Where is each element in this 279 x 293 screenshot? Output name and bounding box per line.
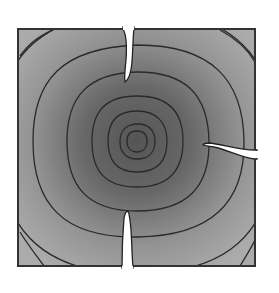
contour-plate-diagram bbox=[0, 0, 279, 293]
right-crack-gap bbox=[254, 151, 258, 158]
plate bbox=[0, 10, 272, 275]
bottom-crack-gap bbox=[122, 266, 133, 269]
top-crack-gap bbox=[123, 26, 134, 30]
